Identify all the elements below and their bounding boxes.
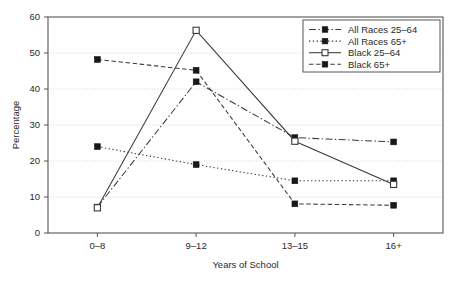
data-point-marker bbox=[292, 178, 298, 184]
chart-figure: 0102030405060 0–89–1213–1516+ Years of S… bbox=[0, 0, 456, 281]
data-point-marker bbox=[391, 139, 397, 145]
legend-marker-sample bbox=[322, 27, 328, 33]
legend-marker-sample bbox=[322, 50, 328, 56]
x-axis: 0–89–1213–1516+ bbox=[89, 233, 402, 251]
y-tick-label: 20 bbox=[29, 155, 40, 166]
x-tick-label: 0–8 bbox=[89, 240, 105, 251]
legend-marker-sample bbox=[322, 62, 328, 68]
y-tick-label: 30 bbox=[29, 119, 40, 130]
data-point-marker bbox=[94, 144, 100, 150]
line-chart: 0102030405060 0–89–1213–1516+ Years of S… bbox=[0, 0, 456, 281]
y-axis: 0102030405060 bbox=[29, 11, 48, 238]
data-point-marker bbox=[193, 79, 199, 85]
x-axis-title: Years of School bbox=[212, 259, 278, 270]
legend-label: All Races 65+ bbox=[348, 36, 407, 47]
data-point-marker bbox=[193, 67, 199, 73]
y-tick-label: 0 bbox=[35, 227, 40, 238]
chart-legend: All Races 25–64All Races 65+Black 25–64B… bbox=[303, 20, 440, 72]
legend-label: Black 65+ bbox=[348, 59, 390, 70]
legend-label: All Races 25–64 bbox=[348, 24, 417, 35]
data-point-marker bbox=[292, 138, 298, 144]
legend-marker-sample bbox=[322, 38, 328, 44]
data-point-marker bbox=[292, 201, 298, 207]
y-tick-label: 60 bbox=[29, 11, 40, 22]
legend-label: Black 25–64 bbox=[348, 47, 400, 58]
data-point-marker bbox=[193, 162, 199, 168]
x-tick-label: 9–12 bbox=[186, 240, 207, 251]
data-point-marker bbox=[391, 181, 397, 187]
data-point-marker bbox=[391, 202, 397, 208]
data-point-marker bbox=[94, 205, 100, 211]
y-axis-title: Percentage bbox=[10, 101, 21, 150]
data-point-marker bbox=[193, 27, 199, 33]
x-tick-label: 16+ bbox=[386, 240, 403, 251]
x-tick-label: 13–15 bbox=[282, 240, 308, 251]
y-tick-label: 50 bbox=[29, 47, 40, 58]
y-tick-label: 40 bbox=[29, 83, 40, 94]
y-tick-label: 10 bbox=[29, 191, 40, 202]
data-point-marker bbox=[94, 57, 100, 63]
